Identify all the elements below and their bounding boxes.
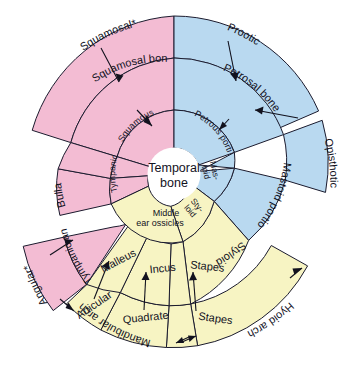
label-middle-ear-ossicles-l1: Middle — [153, 208, 180, 218]
label-middle-ear-ossicles-l2: ear ossicles — [136, 218, 184, 228]
diagram-canvas: Temporal bone Squamosal* — [0, 0, 348, 371]
temporal-bone-sunburst: Temporal bone Squamosal* — [0, 0, 348, 371]
center-label-line2: bone — [160, 176, 188, 190]
center-label-line1: Temporal — [148, 161, 199, 175]
